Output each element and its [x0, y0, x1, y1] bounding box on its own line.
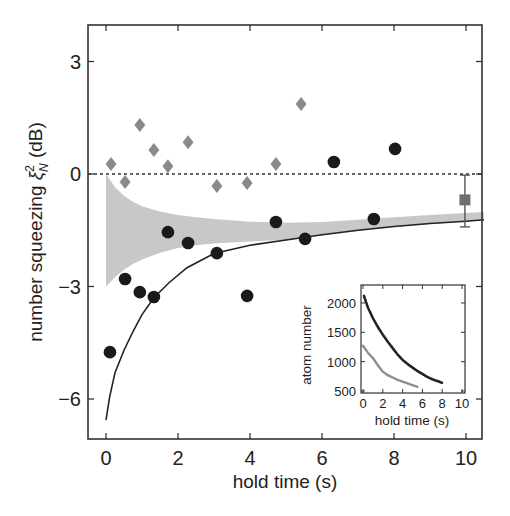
diamond-series	[106, 97, 307, 193]
y-tick-label: −6	[58, 388, 81, 410]
inset-x-tick-label: 2	[379, 396, 386, 411]
y-tick-label: 0	[70, 163, 81, 185]
circle-marker	[104, 346, 117, 359]
inset-y-tick-label: 1500	[327, 325, 356, 340]
circle-marker	[389, 143, 402, 156]
x-tick-label: 8	[388, 447, 399, 469]
diamond-marker	[296, 97, 307, 111]
inset-x-tick-label: 6	[419, 396, 426, 411]
inset-x-tick-label: 8	[439, 396, 446, 411]
y-axis-label: number squeezing ξ2N (dB)	[23, 122, 51, 342]
diamond-marker	[134, 118, 145, 132]
diamond-marker	[242, 176, 253, 190]
diamond-marker	[270, 157, 281, 171]
x-axis-label: hold time (s)	[233, 471, 338, 492]
diamond-marker	[162, 159, 173, 173]
inset-x-axis-label: hold time (s)	[375, 413, 449, 428]
diamond-marker	[120, 175, 131, 189]
circle-marker	[134, 286, 147, 299]
x-tick-label: 6	[316, 447, 327, 469]
inset-chart: 0246810500100015002000 hold time (s) ato…	[299, 285, 469, 428]
inset-x-tick-label: 10	[455, 396, 469, 411]
y-tick-label: −3	[58, 276, 81, 298]
diamond-marker	[148, 143, 159, 157]
diamond-marker	[211, 179, 222, 193]
x-tick-label: 4	[244, 447, 255, 469]
circle-marker	[328, 156, 341, 169]
circle-marker	[270, 216, 283, 229]
y-tick-label: 3	[70, 51, 81, 73]
x-tick-label: 10	[455, 447, 477, 469]
x-tick-label: 0	[100, 447, 111, 469]
inset-x-tick-label: 0	[359, 396, 366, 411]
inset-x-tick-label: 4	[399, 396, 406, 411]
squeezing-chart: 0246810 −6−303 hold time (s) number sque…	[0, 0, 510, 516]
diamond-marker	[106, 157, 117, 171]
inset-y-tick-label: 1000	[327, 355, 356, 370]
circle-marker	[368, 213, 381, 226]
inset-y-tick-label: 500	[334, 384, 356, 399]
circle-marker	[299, 233, 312, 246]
x-tick-label: 2	[172, 447, 183, 469]
circle-marker	[182, 237, 195, 250]
inset-y-axis-label: atom number	[299, 305, 314, 385]
inset-background	[361, 285, 465, 393]
diamond-marker	[183, 135, 194, 149]
circle-marker	[148, 291, 161, 304]
circle-marker	[119, 273, 132, 286]
inset-y-tick-label: 2000	[327, 296, 356, 311]
circle-marker	[211, 247, 224, 260]
circle-marker	[162, 226, 175, 239]
square-marker	[459, 194, 470, 205]
circle-marker	[241, 290, 254, 303]
